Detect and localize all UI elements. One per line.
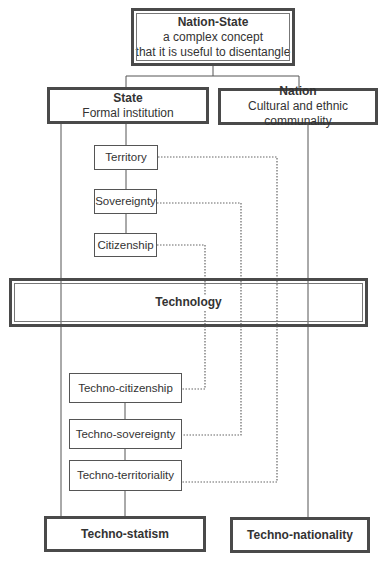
techno-citizenship-box: Techno-citizenship [69, 373, 182, 403]
citizenship-box: Citizenship [94, 233, 157, 257]
techno-territoriality-box: Techno-territoriality [69, 460, 182, 491]
technology-label: Technology [151, 295, 225, 310]
techno-sovereignty-box: Techno-sovereignty [69, 419, 182, 449]
territory-box: Territory [94, 145, 158, 170]
nation-state-box: Nation-State a complex concept that it i… [131, 8, 295, 66]
state-subtitle: Formal institution [82, 106, 173, 121]
techno-statism-box: Techno-statism [44, 516, 206, 552]
nation-title: Nation [279, 84, 316, 99]
state-box: State Formal institution [47, 87, 209, 124]
techno-nationality-box: Techno-nationality [230, 517, 370, 553]
nation-subtitle: Cultural and ethnic communality [221, 99, 375, 129]
nation-state-line1: a complex concept [163, 30, 263, 45]
nation-state-line2: that it is useful to disentangle [136, 45, 291, 60]
technology-box: Technology [9, 278, 368, 327]
sovereignty-box: Sovereignty [94, 189, 157, 214]
nation-state-title: Nation-State [178, 15, 249, 30]
nation-box: Nation Cultural and ethnic communality [218, 88, 378, 125]
state-title: State [113, 91, 142, 106]
